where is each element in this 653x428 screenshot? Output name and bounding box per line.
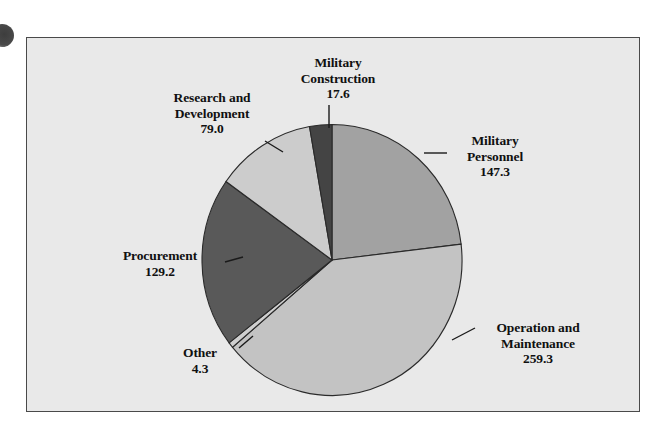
label-military-personnel-line1: Military — [430, 133, 560, 149]
label-military-construction: Military Construction 17.6 — [268, 55, 408, 102]
label-military-personnel-line2: Personnel — [430, 149, 560, 165]
label-research-development-line2: Development — [138, 106, 286, 122]
pie-chart-figure: Military Construction 17.6 Research and … — [0, 0, 653, 428]
label-research-development: Research and Development 79.0 — [138, 90, 286, 137]
label-military-construction-value: 17.6 — [268, 86, 408, 102]
label-research-development-line1: Research and — [138, 90, 286, 106]
label-operation-maintenance-line2: Maintenance — [458, 336, 618, 352]
label-military-personnel-value: 147.3 — [430, 164, 560, 180]
label-operation-maintenance-line1: Operation and — [458, 320, 618, 336]
label-operation-maintenance: Operation and Maintenance 259.3 — [458, 320, 618, 367]
label-other-line1: Other — [160, 345, 240, 361]
pie-slice-group — [202, 124, 462, 395]
label-military-construction-line1: Military — [268, 55, 408, 71]
label-other: Other 4.3 — [160, 345, 240, 376]
label-operation-maintenance-value: 259.3 — [458, 351, 618, 367]
label-military-construction-line2: Construction — [268, 71, 408, 87]
label-other-value: 4.3 — [160, 361, 240, 377]
label-military-personnel: Military Personnel 147.3 — [430, 133, 560, 180]
label-procurement-line1: Procurement — [90, 248, 230, 264]
label-procurement-value: 129.2 — [90, 264, 230, 280]
label-procurement: Procurement 129.2 — [90, 248, 230, 279]
label-research-development-value: 79.0 — [138, 121, 286, 137]
